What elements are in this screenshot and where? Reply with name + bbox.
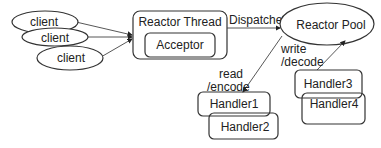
client-node-3: client [37,46,103,70]
svg-text:write: write [280,42,307,56]
reactor-diagram: client client client Reactor Thread Acce… [0,0,381,148]
svg-text:Handler4: Handler4 [310,97,359,111]
svg-text:Reactor Thread: Reactor Thread [138,15,221,29]
svg-text:Reactor Pool: Reactor Pool [296,18,365,32]
svg-text:Handler3: Handler3 [304,77,353,91]
svg-text:Handler2: Handler2 [221,120,270,134]
svg-text:client: client [57,51,86,65]
svg-text:Handler1: Handler1 [210,97,259,111]
write-decode-arrow: write /decode [280,41,345,70]
svg-text:/decode: /decode [281,55,324,69]
reactor-thread-node: Reactor Thread Acceptor [133,11,227,59]
reactor-pool-node: Reactor Pool [280,3,374,45]
svg-text:read: read [219,67,243,81]
handler-2-node: Handler2 [209,113,278,139]
svg-text:Dispatcher: Dispatcher [229,13,286,27]
svg-text:client: client [41,31,70,45]
svg-text:client: client [30,15,59,29]
dispatcher-arrow: Dispatcher [227,13,286,28]
client-node-2: client [22,28,88,46]
svg-text:Acceptor: Acceptor [156,38,203,52]
